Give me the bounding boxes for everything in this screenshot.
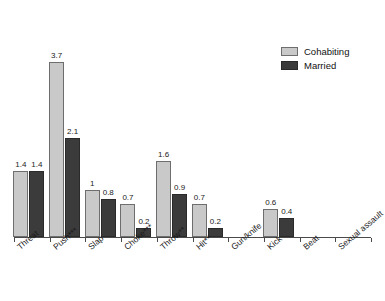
legend-swatch-married bbox=[281, 61, 298, 70]
x-axis-tick bbox=[300, 238, 301, 242]
bar-cohabiting-4 bbox=[156, 161, 171, 237]
x-axis-tick bbox=[264, 238, 265, 242]
bar-value-label: 2.1 bbox=[60, 127, 85, 136]
bar-married-0 bbox=[29, 171, 44, 237]
bar-value-label: 1 bbox=[80, 179, 105, 188]
bar-married-7 bbox=[279, 218, 294, 237]
bar-value-label: 0.9 bbox=[167, 183, 192, 192]
x-axis-tick bbox=[85, 238, 86, 242]
bar-cohabiting-0 bbox=[13, 171, 28, 237]
x-axis-tick bbox=[193, 238, 194, 242]
x-axis-tick bbox=[14, 238, 15, 242]
bar-value-label: 1.6 bbox=[151, 150, 176, 159]
bar-value-label: 1.4 bbox=[24, 160, 49, 169]
bar-married-2 bbox=[101, 199, 116, 237]
legend: Cohabiting Married bbox=[281, 45, 376, 73]
bar-value-label: 3.7 bbox=[44, 51, 69, 60]
legend-label-married: Married bbox=[304, 59, 336, 72]
x-axis-tick bbox=[121, 238, 122, 242]
x-axis-tick bbox=[335, 238, 336, 242]
x-axis-tick bbox=[157, 238, 158, 242]
bar-value-label: 0.2 bbox=[203, 217, 228, 226]
legend-item-cohabiting: Cohabiting bbox=[281, 45, 376, 58]
x-axis-tick bbox=[50, 238, 51, 242]
bar-married-1 bbox=[65, 138, 80, 237]
x-axis-tick bbox=[228, 238, 229, 242]
bar-cohabiting-1 bbox=[49, 62, 64, 237]
bar-married-5 bbox=[208, 228, 223, 237]
x-axis-tick bbox=[371, 238, 372, 242]
bar-value-label: 0.4 bbox=[274, 207, 299, 216]
legend-label-cohabiting: Cohabiting bbox=[304, 45, 349, 58]
legend-item-married: Married bbox=[281, 59, 376, 72]
bar-value-label: 0.7 bbox=[187, 193, 212, 202]
legend-swatch-cohabiting bbox=[281, 47, 298, 56]
bar-value-label: 0.6 bbox=[258, 198, 283, 207]
bar-value-label: 0.7 bbox=[115, 193, 140, 202]
